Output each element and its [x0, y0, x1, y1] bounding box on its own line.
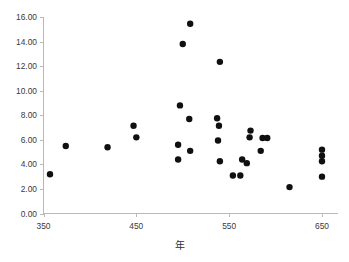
y-axis-tick-marks: [40, 18, 44, 215]
y-tick-label: 14.00: [16, 37, 37, 47]
data-point: [175, 156, 181, 162]
data-point: [217, 59, 223, 65]
data-point: [215, 137, 221, 143]
y-axis-tick-labels: 0.002.004.006.008.0010.0012.0014.0016.00: [16, 12, 37, 219]
data-point: [214, 115, 220, 121]
chart-canvas: 0.002.004.006.008.0010.0012.0014.0016.00…: [0, 0, 349, 262]
y-tick-label: 6.00: [21, 135, 38, 145]
y-tick-label: 8.00: [21, 110, 38, 120]
data-point: [104, 144, 110, 150]
y-tick-label: 2.00: [21, 184, 38, 194]
y-tick-label: 0.00: [21, 209, 38, 219]
data-point: [130, 122, 136, 128]
data-point: [319, 153, 325, 159]
data-point: [319, 158, 325, 164]
scatter-chart: 0.002.004.006.008.0010.0012.0014.0016.00…: [0, 0, 349, 262]
y-tick-label: 16.00: [16, 12, 37, 22]
y-tick-label: 12.00: [16, 61, 37, 71]
x-axis-tick-marks: [45, 214, 323, 218]
x-tick-label: 350: [37, 221, 51, 231]
data-point: [187, 148, 193, 154]
data-point: [286, 184, 292, 190]
data-point: [47, 171, 53, 177]
data-point: [247, 127, 253, 133]
data-point: [180, 41, 186, 47]
x-axis-tick-labels: 350450550650: [37, 221, 330, 231]
x-tick-label: 650: [315, 221, 329, 231]
data-point: [319, 146, 325, 152]
data-point: [264, 135, 270, 141]
data-point-group: [47, 21, 325, 191]
data-point: [63, 143, 69, 149]
y-tick-label: 10.00: [16, 86, 37, 96]
data-point: [319, 173, 325, 179]
x-tick-label: 450: [129, 221, 143, 231]
data-point: [237, 172, 243, 178]
x-axis-title: 年: [175, 239, 185, 251]
x-tick-label: 550: [222, 221, 236, 231]
data-point: [244, 160, 250, 166]
data-point: [177, 102, 183, 108]
data-point: [258, 148, 264, 154]
data-point: [133, 134, 139, 140]
data-point: [216, 122, 222, 128]
data-point: [175, 142, 181, 148]
data-point: [230, 172, 236, 178]
data-point: [187, 21, 193, 27]
plot-area: 0.002.004.006.008.0010.0012.0014.0016.00…: [0, 0, 349, 262]
data-point: [246, 134, 252, 140]
y-tick-label: 4.00: [21, 159, 38, 169]
data-point: [217, 158, 223, 164]
data-point: [186, 116, 192, 122]
